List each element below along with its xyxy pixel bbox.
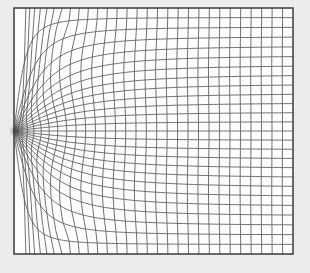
mesh-figure [0, 0, 310, 273]
mesh-grid-svg [0, 0, 310, 273]
convergence-point-smudge [9, 125, 22, 138]
